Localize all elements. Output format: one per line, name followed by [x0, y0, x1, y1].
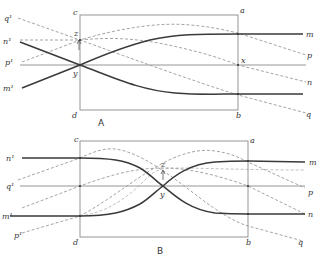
- panel-b-label-z: z: [160, 160, 166, 169]
- panel-a-label-p1: p¹: [5, 58, 13, 67]
- panel-a-label-x: x: [241, 56, 246, 65]
- panel-a-label-p: p: [307, 51, 312, 60]
- panel-b-point-y: [162, 185, 165, 188]
- panel-b-label-d: d: [73, 238, 78, 247]
- panel-a-label-b: b: [236, 111, 241, 120]
- panel-a-curve-q-dashed: [18, 18, 306, 113]
- panel-b-label-q1: q¹: [6, 182, 14, 191]
- panel-b-point-bn: [247, 213, 249, 215]
- panel-a-point-z: [79, 39, 81, 41]
- panel-a: c a b d z y x q¹ n¹ p¹ m¹ m p n q A: [3, 6, 314, 128]
- panel-a-point-am: [237, 33, 239, 35]
- panel-a-point-x: [237, 64, 239, 66]
- panel-a-point-y: [79, 64, 82, 67]
- panel-a-label-a: a: [240, 6, 245, 15]
- panel-b: c a b d z y n¹ q¹ m¹ p¹ m p n q B: [2, 135, 317, 256]
- panel-b-point-axis-right: [247, 185, 249, 187]
- panel-a-curve-n-dashed: [20, 38, 306, 82]
- panel-b-label-q: q: [298, 238, 303, 247]
- panel-a-label-n: n: [307, 78, 312, 87]
- panel-a-curve-p-dashed: [22, 24, 306, 62]
- panel-b-frame: [80, 141, 248, 237]
- panel-b-label-m1: m¹: [2, 212, 13, 221]
- panel-b-label-n: n: [308, 210, 313, 219]
- caption-fragment: [0, 255, 321, 263]
- panel-b-point-am: [247, 160, 249, 162]
- panel-a-curve-n-solid: [20, 42, 303, 94]
- panel-b-point-dm: [79, 215, 81, 217]
- panel-a-label-n1: n¹: [3, 37, 11, 46]
- panel-a-curve-m-solid: [22, 34, 303, 88]
- panel-b-label-y: y: [159, 190, 165, 199]
- panel-b-point-axis-left: [79, 185, 81, 187]
- panel-b-point-cn: [79, 157, 81, 159]
- panel-a-label-m: m: [306, 30, 314, 39]
- panel-b-label-b: b: [246, 238, 251, 247]
- panel-a-label-m1: m¹: [3, 84, 14, 93]
- panel-a-frame: [80, 15, 238, 110]
- panel-b-label-c: c: [74, 135, 79, 144]
- panel-b-label-p: p: [308, 188, 313, 197]
- panel-b-label-p1: p¹: [14, 231, 22, 240]
- panel-a-label-d: d: [72, 111, 77, 120]
- panel-a-point-bn: [237, 93, 239, 95]
- panel-a-label-y: y: [72, 69, 78, 78]
- panel-a-label-z: z: [73, 29, 79, 38]
- panel-b-label-n1: n¹: [6, 154, 14, 163]
- panel-a-label-q1: q¹: [4, 14, 12, 23]
- figure-canvas: c a b d z y x q¹ n¹ p¹ m¹ m p n q A: [0, 0, 321, 263]
- panel-a-label-c: c: [73, 8, 78, 17]
- panel-a-caption: A: [98, 118, 105, 128]
- panel-a-label-q: q: [306, 110, 311, 119]
- panel-b-label-a: a: [250, 136, 255, 145]
- panel-b-label-m: m: [309, 158, 317, 167]
